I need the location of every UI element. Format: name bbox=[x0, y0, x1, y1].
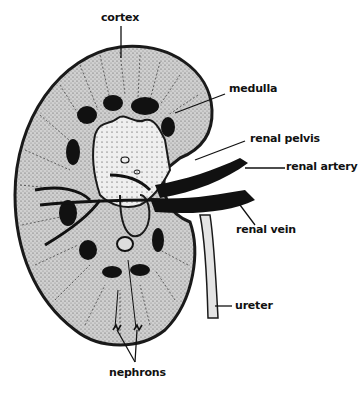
label-medulla: medulla bbox=[229, 82, 277, 95]
ureter-tube bbox=[200, 215, 218, 318]
label-renal-artery: renal artery bbox=[286, 160, 358, 173]
label-ureter: ureter bbox=[235, 299, 273, 312]
label-nephrons: nephrons bbox=[109, 366, 166, 379]
label-renal-vein: renal vein bbox=[236, 223, 296, 236]
label-cortex: cortex bbox=[101, 11, 139, 24]
label-renal-pelvis: renal pelvis bbox=[250, 132, 320, 145]
kidney-diagram bbox=[0, 0, 361, 393]
